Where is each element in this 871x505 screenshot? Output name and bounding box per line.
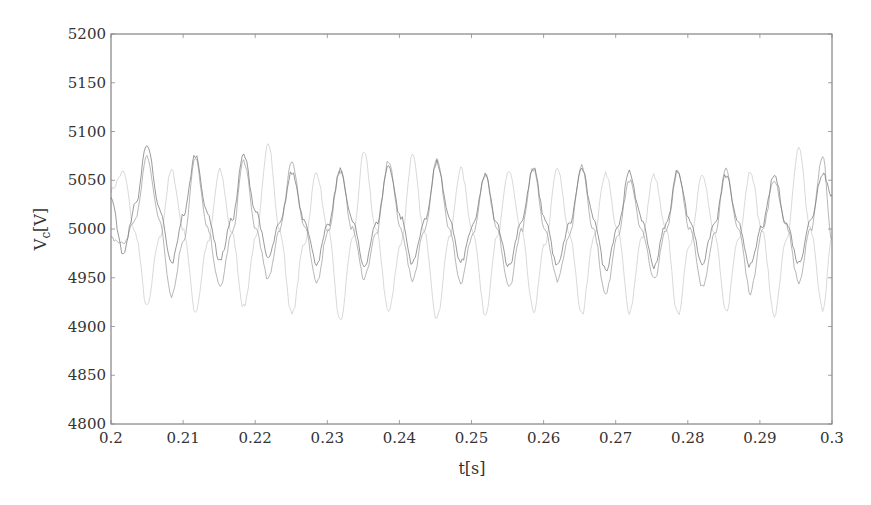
y-tick-label: 5150: [68, 74, 106, 92]
y-tick-label: 4950: [68, 269, 106, 287]
y-axis-label-unit: [V]: [31, 208, 50, 232]
x-tick-label: 0.27: [599, 429, 632, 447]
y-tick-label: 4800: [68, 415, 106, 433]
x-tick-label: 0.23: [311, 429, 344, 447]
series-line-vc-phase-a: [111, 146, 832, 271]
y-tick-label: 5200: [68, 25, 106, 43]
x-tick-label: 0.28: [671, 429, 704, 447]
y-axis-label-main: V: [31, 238, 50, 251]
x-tick-label: 0.24: [383, 429, 416, 447]
series-line-vc-phase-c: [111, 144, 832, 320]
y-axis-label: Vc[V]: [31, 208, 53, 251]
x-tick-label: 0.26: [527, 429, 560, 447]
y-tick-label: 4850: [68, 366, 106, 384]
x-tick-label: 0.21: [166, 429, 199, 447]
tick-labels: 0.20.210.220.230.240.250.260.270.280.290…: [68, 25, 844, 447]
chart: 0.20.210.220.230.240.250.260.270.280.290…: [0, 0, 871, 505]
y-tick-label: 5000: [68, 220, 106, 238]
x-tick-label: 0.3: [820, 429, 844, 447]
x-axis-label: t[s]: [458, 459, 485, 478]
y-tick-label: 5050: [68, 171, 106, 189]
x-tick-label: 0.29: [743, 429, 776, 447]
y-tick-label: 4900: [68, 318, 106, 336]
y-tick-label: 5100: [68, 123, 106, 141]
x-tick-label: 0.22: [238, 429, 271, 447]
x-tick-label: 0.25: [455, 429, 488, 447]
series-layer: [111, 144, 832, 320]
